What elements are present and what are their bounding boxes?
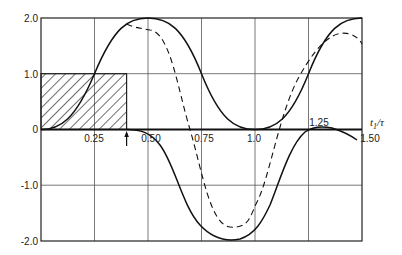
hatched-pulse bbox=[41, 74, 127, 130]
x-tick-025: 0.25 bbox=[84, 133, 104, 144]
y-tick-neg1: -1.0 bbox=[21, 180, 39, 191]
x-tick-075: 0.75 bbox=[194, 133, 214, 144]
solid-curve-after-pulse bbox=[127, 127, 357, 240]
y-tick-1: 1.0 bbox=[24, 69, 38, 80]
response-chart: 2.0 1.0 0 -1.0 -2.0 0.25 0.50 0.75 1.0 1… bbox=[0, 0, 402, 255]
x-tick-150: 1.50 bbox=[360, 133, 380, 144]
y-tick-2: 2.0 bbox=[24, 13, 38, 24]
pulse-end-arrow-icon bbox=[124, 131, 129, 146]
x-tick-100: 1.0 bbox=[247, 133, 261, 144]
x-tick-125: 1.25 bbox=[309, 117, 329, 128]
x-axis-label: t1/τ bbox=[370, 116, 385, 131]
y-tick-0: 0 bbox=[32, 124, 38, 135]
x-tick-050: 0.50 bbox=[141, 133, 161, 144]
y-tick-neg2: -2.0 bbox=[21, 236, 39, 247]
